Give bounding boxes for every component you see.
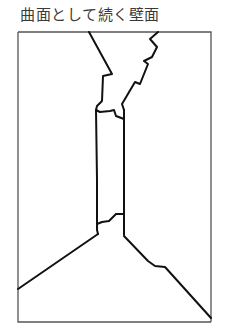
lower-band-line [97, 214, 124, 224]
junction-line [96, 110, 124, 119]
frame [18, 32, 211, 322]
wall-lines [18, 32, 211, 318]
floor-left-line [18, 234, 98, 289]
floor-right-line [124, 236, 211, 318]
wall-line-drawing [0, 0, 228, 334]
left-crack-line [89, 32, 112, 110]
right-crack-line [122, 32, 158, 110]
column-left-edge [96, 110, 98, 234]
